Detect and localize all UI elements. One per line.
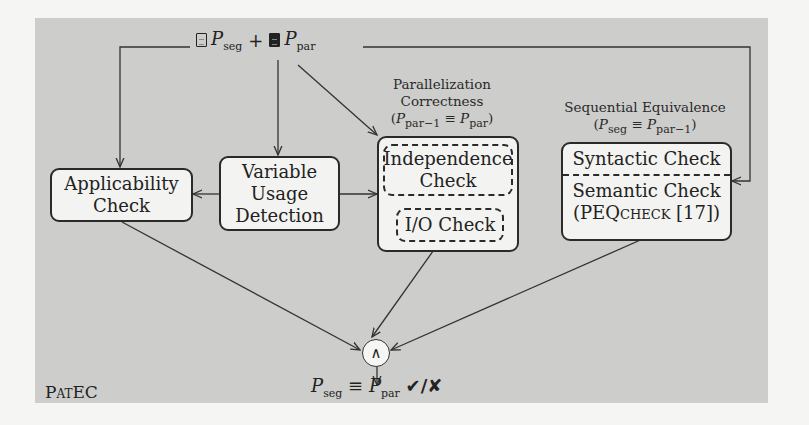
variable-label: Variable — [242, 161, 317, 183]
patec-label: PatEC — [45, 382, 98, 402]
parallel-program-label: Ppar — [284, 28, 315, 53]
sequential-formula: (Pseg ≡ Ppar−1) — [550, 116, 740, 138]
plus-sign: + — [248, 30, 263, 51]
syntactic-check: Syntactic Check — [563, 144, 730, 176]
check-cross-icon: ✔/✘ — [406, 375, 443, 396]
io-check-box: I/O Check — [396, 208, 504, 242]
independence-check-box: Independence Check — [383, 144, 513, 196]
program-inputs: Pseg + Ppar — [196, 28, 315, 53]
semantic-check: Semantic Check (PEQcheck [17]) — [572, 176, 720, 224]
sequential-equivalence-box: Syntactic Check Semantic Check (PEQcheck… — [561, 142, 732, 241]
file-outline-icon — [196, 33, 207, 47]
parallelization-correctness-box: Independence Check I/O Check — [377, 136, 519, 252]
and-symbol: ∧ — [371, 344, 382, 362]
parallelization-correctness-heading: Parallelization Correctness (Ppar−1 ≡ Pp… — [372, 76, 512, 132]
parallelization-formula: (Ppar−1 ≡ Ppar) — [372, 110, 512, 132]
applicability-check-box: Applicability Check — [50, 168, 193, 222]
sequential-program-label: Pseg — [211, 28, 242, 53]
applicability-label: Applicability — [64, 173, 179, 195]
variable-usage-detection-box: Variable Usage Detection — [219, 156, 340, 231]
file-filled-icon — [269, 33, 280, 47]
detection-label: Detection — [235, 205, 323, 227]
sequential-equivalence-heading: Sequential Equivalence (Pseg ≡ Ppar−1) — [550, 99, 740, 138]
peqcheck-citation: (PEQcheck [17]) — [572, 202, 720, 224]
equivalence-result: Pseg ≡ Ppar ✔/✘ — [311, 375, 442, 400]
usage-label: Usage — [251, 183, 308, 205]
and-node: ∧ — [362, 339, 390, 367]
check-label: Check — [93, 195, 150, 217]
